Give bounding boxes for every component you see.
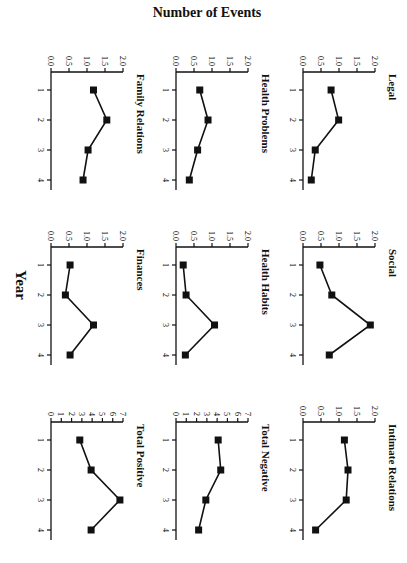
- svg-text:2.0: 2.0: [370, 406, 379, 416]
- svg-text:0.0: 0.0: [171, 231, 180, 241]
- line-chart: 0.00.51.01.52.01234: [29, 40, 147, 200]
- svg-text:1: 1: [288, 438, 297, 442]
- x-axis-label: Year: [12, 270, 29, 300]
- svg-text:2.0: 2.0: [243, 231, 252, 241]
- svg-text:2: 2: [161, 468, 170, 472]
- svg-text:1.5: 1.5: [100, 56, 109, 66]
- svg-text:1.5: 1.5: [352, 406, 361, 416]
- panel-legal: Legal0.00.51.01.52.01234: [274, 40, 399, 200]
- svg-text:1.0: 1.0: [334, 56, 343, 66]
- svg-text:0.0: 0.0: [298, 56, 307, 66]
- svg-text:2.0: 2.0: [370, 231, 379, 241]
- svg-text:2: 2: [36, 468, 45, 472]
- svg-text:2: 2: [36, 293, 45, 297]
- panel-family-relations: Family Relations0.00.51.01.52.01234: [22, 40, 147, 200]
- svg-text:1: 1: [288, 263, 297, 267]
- svg-text:1.5: 1.5: [225, 56, 234, 66]
- svg-text:1.5: 1.5: [352, 56, 361, 66]
- svg-text:4: 4: [36, 528, 45, 532]
- svg-text:7: 7: [243, 412, 252, 416]
- svg-text:4: 4: [161, 353, 170, 357]
- svg-text:1: 1: [36, 438, 45, 442]
- svg-text:2: 2: [288, 118, 297, 122]
- svg-text:7: 7: [118, 412, 127, 416]
- svg-text:1: 1: [56, 412, 65, 416]
- svg-text:2.0: 2.0: [118, 56, 127, 66]
- panel-total-negative: Total Negative012345671234: [147, 390, 272, 550]
- svg-text:0.0: 0.0: [298, 406, 307, 416]
- svg-text:3: 3: [77, 412, 86, 416]
- svg-text:1: 1: [161, 263, 170, 267]
- line-chart: 0.00.51.01.52.01234: [281, 215, 399, 375]
- svg-text:2: 2: [161, 118, 170, 122]
- svg-text:2: 2: [67, 412, 76, 416]
- svg-text:3: 3: [202, 412, 211, 416]
- svg-text:3: 3: [36, 498, 45, 502]
- svg-text:2: 2: [192, 412, 201, 416]
- svg-text:5: 5: [222, 412, 231, 416]
- svg-text:4: 4: [36, 178, 45, 182]
- svg-text:1: 1: [161, 88, 170, 92]
- svg-text:1.0: 1.0: [82, 56, 91, 66]
- svg-text:4: 4: [87, 412, 96, 416]
- line-chart: 0.00.51.01.52.01234: [154, 40, 272, 200]
- svg-text:2: 2: [288, 468, 297, 472]
- line-chart: 0.00.51.01.52.01234: [281, 390, 399, 550]
- svg-text:3: 3: [288, 148, 297, 152]
- svg-text:3: 3: [161, 498, 170, 502]
- y-axis-label: Number of Events: [142, 5, 272, 21]
- svg-text:3: 3: [288, 498, 297, 502]
- svg-text:0.0: 0.0: [298, 231, 307, 241]
- svg-text:1.0: 1.0: [207, 56, 216, 66]
- svg-text:4: 4: [212, 412, 221, 416]
- line-chart: 012345671234: [154, 390, 272, 550]
- svg-text:3: 3: [161, 148, 170, 152]
- line-chart: 0.00.51.01.52.01234: [154, 215, 272, 375]
- svg-text:0: 0: [46, 412, 55, 416]
- svg-text:1: 1: [36, 263, 45, 267]
- svg-text:6: 6: [108, 412, 117, 416]
- svg-text:2.0: 2.0: [118, 231, 127, 241]
- svg-text:0.0: 0.0: [171, 56, 180, 66]
- svg-text:2.0: 2.0: [243, 56, 252, 66]
- svg-text:0.5: 0.5: [64, 56, 73, 66]
- svg-text:1.0: 1.0: [82, 231, 91, 241]
- svg-text:4: 4: [161, 528, 170, 532]
- panel-social: Social0.00.51.01.52.01234: [274, 215, 399, 375]
- line-chart: 0.00.51.01.52.01234: [29, 215, 147, 375]
- svg-text:1: 1: [36, 88, 45, 92]
- panel-intimate-relations: Intimate Relations0.00.51.01.52.01234: [274, 390, 399, 550]
- svg-text:0.5: 0.5: [189, 56, 198, 66]
- svg-text:1.5: 1.5: [225, 231, 234, 241]
- svg-text:2: 2: [161, 293, 170, 297]
- svg-text:4: 4: [288, 528, 297, 532]
- svg-text:1: 1: [161, 438, 170, 442]
- panel-health-habits: Health Habits0.00.51.01.52.01234: [147, 215, 272, 375]
- svg-text:0.5: 0.5: [316, 406, 325, 416]
- svg-text:3: 3: [161, 323, 170, 327]
- svg-text:1.0: 1.0: [334, 406, 343, 416]
- svg-text:2: 2: [36, 118, 45, 122]
- svg-text:0.0: 0.0: [46, 56, 55, 66]
- svg-text:1: 1: [181, 412, 190, 416]
- svg-text:1.0: 1.0: [334, 231, 343, 241]
- svg-text:0.5: 0.5: [316, 56, 325, 66]
- svg-text:3: 3: [36, 148, 45, 152]
- svg-text:3: 3: [36, 323, 45, 327]
- svg-text:1.0: 1.0: [207, 231, 216, 241]
- svg-text:4: 4: [36, 353, 45, 357]
- svg-text:1.5: 1.5: [352, 231, 361, 241]
- svg-text:2: 2: [288, 293, 297, 297]
- svg-text:4: 4: [288, 353, 297, 357]
- panel-finances: Finances0.00.51.01.52.01234: [22, 215, 147, 375]
- svg-text:0.5: 0.5: [64, 231, 73, 241]
- svg-text:2.0: 2.0: [370, 56, 379, 66]
- svg-text:3: 3: [288, 323, 297, 327]
- figure-stage: Number of Events Legal0.00.51.01.52.0123…: [0, 0, 407, 563]
- svg-text:0.5: 0.5: [316, 231, 325, 241]
- svg-text:0: 0: [171, 412, 180, 416]
- line-chart: 012345671234: [29, 390, 147, 550]
- svg-text:5: 5: [97, 412, 106, 416]
- svg-text:4: 4: [288, 178, 297, 182]
- svg-text:1.5: 1.5: [100, 231, 109, 241]
